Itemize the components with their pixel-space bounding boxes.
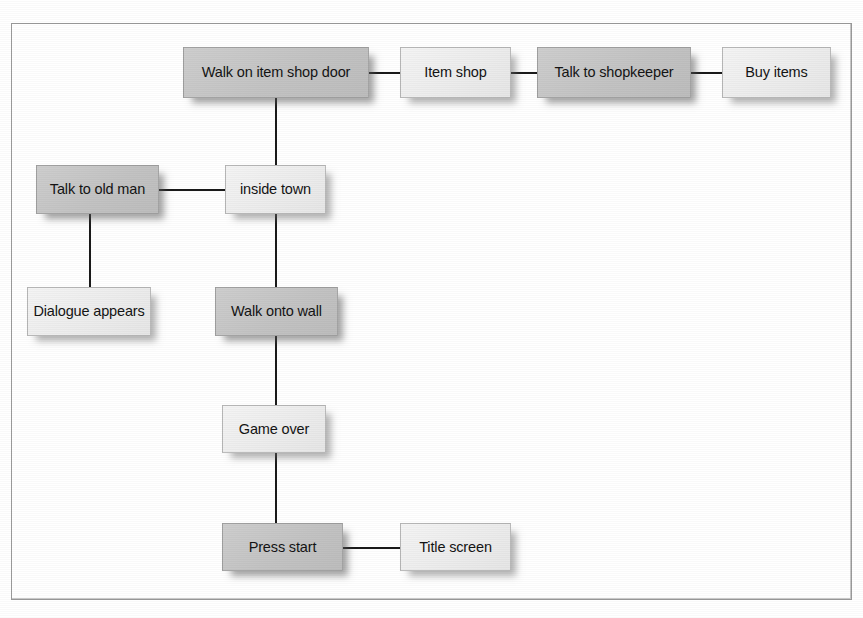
node-title-screen[interactable]: Title screen xyxy=(400,523,511,571)
node-dialogue-appears[interactable]: Dialogue appears xyxy=(27,287,151,336)
node-talk-to-old-man[interactable]: Talk to old man xyxy=(36,165,159,214)
diagram-canvas: Walk on item shop doorItem shopTalk to s… xyxy=(0,0,863,618)
node-label: Press start xyxy=(243,540,323,555)
node-buy-items[interactable]: Buy items xyxy=(722,47,831,98)
connector-walk-onto-wall--game-over xyxy=(275,336,277,406)
node-press-start[interactable]: Press start xyxy=(222,523,343,571)
node-game-over[interactable]: Game over xyxy=(222,405,326,453)
node-label: inside town xyxy=(234,182,317,197)
node-inside-town[interactable]: inside town xyxy=(225,165,326,214)
node-walk-onto-wall[interactable]: Walk onto wall xyxy=(215,287,338,336)
node-label: Buy items xyxy=(739,65,813,80)
connector-talk-to-old-man--inside-town xyxy=(159,189,226,191)
node-label: Talk to shopkeeper xyxy=(548,65,679,80)
node-label: Game over xyxy=(233,422,315,437)
node-label: Walk onto wall xyxy=(225,304,328,319)
connector-game-over--press-start xyxy=(275,453,277,524)
node-label: Walk on item shop door xyxy=(196,65,356,80)
connector-walk-on-item-shop-door--item-shop xyxy=(369,72,401,74)
node-talk-to-shopkeeper[interactable]: Talk to shopkeeper xyxy=(537,47,691,98)
connector-press-start--title-screen xyxy=(343,547,401,549)
node-label: Item shop xyxy=(418,65,492,80)
connector-talk-to-old-man--dialogue-appears xyxy=(89,214,91,288)
connector-walk-on-item-shop-door--inside-town xyxy=(275,98,277,166)
connector-item-shop--talk-to-shopkeeper xyxy=(511,72,538,74)
node-label: Dialogue appears xyxy=(27,304,150,319)
connector-inside-town--walk-onto-wall xyxy=(275,214,277,288)
node-label: Talk to old man xyxy=(44,182,151,197)
node-item-shop[interactable]: Item shop xyxy=(400,47,511,98)
node-walk-on-item-shop-door[interactable]: Walk on item shop door xyxy=(183,47,369,98)
node-label: Title screen xyxy=(413,540,498,555)
connector-talk-to-shopkeeper--buy-items xyxy=(691,72,723,74)
